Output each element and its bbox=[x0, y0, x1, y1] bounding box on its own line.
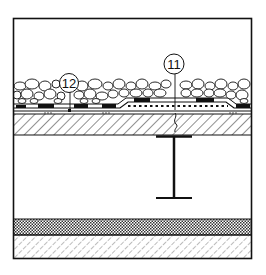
base-layer bbox=[13, 236, 252, 259]
callout-11-label: 11 bbox=[167, 57, 181, 72]
callout-12-label: 12 bbox=[62, 76, 76, 91]
insulation-layer bbox=[13, 219, 252, 235]
concrete-slab bbox=[13, 114, 252, 135]
roof-section-diagram: 11 12 bbox=[0, 0, 266, 275]
